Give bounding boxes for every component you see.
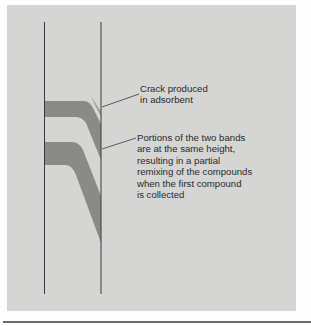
crack-label-line: in adsorbent — [140, 94, 208, 105]
bands-label-line: Portions of the two bands — [137, 132, 252, 143]
bands-label-line: when the first compound — [137, 178, 252, 189]
bands-label: Portions of the two bands are at the sam… — [137, 132, 252, 200]
crack-label: Crack produced in adsorbent — [140, 83, 208, 106]
bands-label-line: is collected — [137, 189, 252, 200]
bands-label-line: resulting in a partial — [137, 155, 252, 166]
bottom-divider — [3, 321, 311, 323]
lower-band — [44, 142, 101, 243]
bands-label-line: are at the same height, — [137, 143, 252, 154]
bands-leader-line — [102, 138, 136, 149]
bands-label-line: remixing of the compounds — [137, 166, 252, 177]
crack-leader-line — [102, 94, 139, 107]
crack-label-line: Crack produced — [140, 83, 208, 94]
